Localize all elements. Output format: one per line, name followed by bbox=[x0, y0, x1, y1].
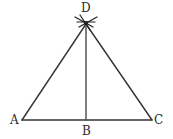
apex-point-marker bbox=[84, 21, 88, 25]
triangle-diagram-svg bbox=[0, 0, 173, 139]
geometry-figure: D A B C bbox=[0, 0, 173, 139]
vertex-label-b: B bbox=[82, 125, 91, 137]
segment-ad bbox=[22, 24, 86, 120]
vertex-label-d: D bbox=[81, 2, 91, 14]
segment-dc bbox=[86, 24, 152, 120]
vertex-label-a: A bbox=[10, 114, 19, 126]
vertex-label-c: C bbox=[154, 114, 163, 126]
